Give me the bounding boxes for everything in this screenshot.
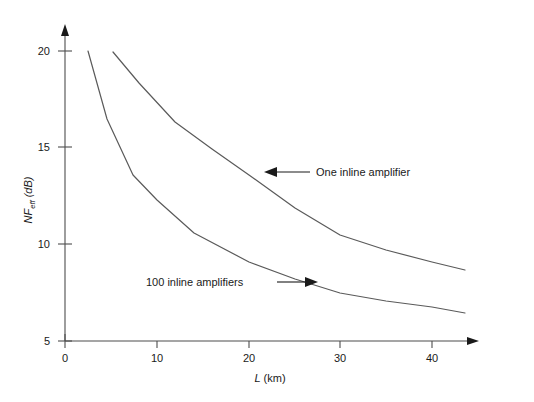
y-tick-label-10: 10 — [38, 238, 50, 250]
x-tick-label-0: 0 — [62, 352, 68, 364]
chart-background — [0, 0, 534, 402]
x-axis-title-unit: (km) — [261, 372, 286, 384]
x-axis-title: L (km) — [254, 372, 285, 384]
annotation-label-one-inline-amplifier: One inline amplifier — [316, 166, 410, 178]
y-tick-label-15: 15 — [38, 141, 50, 153]
y-axis-title-main: NF — [22, 207, 34, 223]
y-tick-label-5: 5 — [44, 335, 50, 347]
x-tick-label-30: 30 — [334, 352, 346, 364]
chart-figure: 20 15 10 5 NFeff (dB) 0 10 20 — [0, 0, 534, 402]
x-tick-label-20: 20 — [243, 352, 255, 364]
y-axis-title-unit: (dB) — [22, 176, 34, 200]
y-tick-label-20: 20 — [38, 45, 50, 57]
x-tick-label-40: 40 — [426, 352, 438, 364]
noise-figure-chart: 20 15 10 5 NFeff (dB) 0 10 20 — [0, 0, 534, 402]
annotation-label-100-inline-amplifiers: 100 inline amplifiers — [146, 276, 244, 288]
x-tick-label-10: 10 — [151, 352, 163, 364]
